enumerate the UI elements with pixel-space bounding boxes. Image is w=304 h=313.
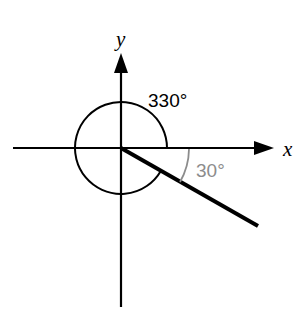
reference-angle-label: 30° [196,160,225,181]
y-axis-arrowhead-icon [114,53,128,73]
y-axis-label: y [114,27,126,51]
main-angle-label: 330° [148,90,187,111]
angle-diagram: x y 330° 30° [0,0,304,313]
terminal-side [121,148,258,226]
x-axis-label: x [282,137,293,161]
x-axis-arrowhead-icon [254,141,274,155]
reference-angle-arc [180,149,189,182]
